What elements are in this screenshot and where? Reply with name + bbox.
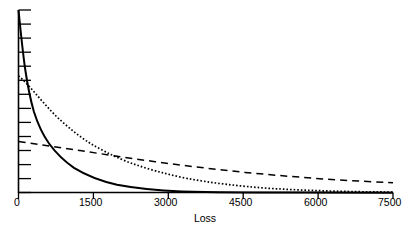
x-tick-label-2: 3000	[154, 196, 177, 208]
x-tick-label-1: 1500	[79, 196, 102, 208]
series-dotted-curve	[19, 76, 394, 192]
x-tick-label-3: 4500	[229, 196, 252, 208]
x-tick-label-0: 0	[14, 196, 20, 208]
x-tick-label-5: 7500	[378, 196, 401, 208]
series-dashed-curve	[19, 142, 394, 183]
x-tick-label-4: 6000	[304, 196, 327, 208]
series-solid-curve	[19, 10, 394, 193]
x-axis-title: Loss	[0, 212, 410, 224]
chart-plot-area	[0, 0, 410, 232]
chart-figure: 0 1500 3000 4500 6000 7500 Loss	[0, 0, 410, 232]
